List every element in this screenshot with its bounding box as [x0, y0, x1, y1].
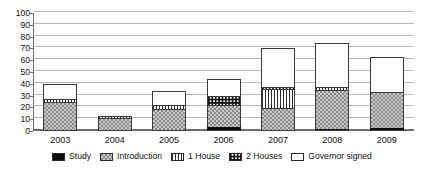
legend-swatch-icon [229, 153, 242, 161]
x-axis-label-2009: 2009 [365, 134, 409, 146]
stacked-bar-chart: 0102030405060708090100 20032004200520062… [0, 0, 424, 174]
bar-segment-introduction[interactable] [315, 90, 349, 129]
x-axis-label-2004: 2004 [93, 134, 137, 146]
bar-segment-1-house[interactable] [98, 116, 132, 118]
y-axis-tick-label: 30 [2, 91, 30, 100]
x-axis-label-2007: 2007 [256, 134, 300, 146]
bar-stack-2006[interactable] [207, 79, 241, 131]
bar-segment-introduction[interactable] [370, 92, 404, 128]
bar-stack-2003[interactable] [43, 84, 77, 131]
bar-segment-1-house[interactable] [43, 99, 77, 101]
legend-label: Introduction [117, 152, 162, 161]
legend-label: Governor signed [308, 152, 372, 161]
y-axis-tick-label: 60 [2, 56, 30, 65]
y-axis-tick-label: 100 [2, 9, 30, 18]
legend-item-1-house[interactable]: 1 House [171, 152, 220, 161]
legend-swatch-icon [171, 153, 184, 161]
legend-item-governor-signed[interactable]: Governor signed [291, 152, 372, 161]
y-axis-tick-label: 50 [2, 68, 30, 77]
legend-swatch-icon [52, 153, 65, 161]
y-axis-tick-label: 70 [2, 44, 30, 53]
legend-item-introduction[interactable]: Introduction [100, 152, 162, 161]
y-axis-tick-label: 90 [2, 21, 30, 30]
y-axis-tick-label: 80 [2, 32, 30, 41]
legend-label: 2 Houses [246, 152, 282, 161]
legend-swatch-icon [291, 153, 304, 161]
x-axis-label-2006: 2006 [202, 134, 246, 146]
x-axis-tick-labels: 2003200420052006200720082009 [33, 134, 414, 148]
bar-segment-introduction[interactable] [152, 109, 186, 131]
bar-segment-introduction[interactable] [98, 118, 132, 131]
bar-segment-governor-signed[interactable] [261, 48, 295, 88]
y-axis-tick-mark [30, 131, 33, 132]
x-axis-label-2008: 2008 [310, 134, 354, 146]
bar-segment-2-houses[interactable] [261, 87, 295, 89]
bar-segment-governor-signed[interactable] [43, 84, 77, 99]
bar-segment-2-houses[interactable] [207, 96, 241, 105]
bars-layer [33, 13, 414, 131]
bar-stack-2008[interactable] [315, 43, 349, 131]
bar-segment-1-house[interactable] [261, 89, 295, 108]
legend-item-study[interactable]: Study [52, 152, 91, 161]
bar-segment-study[interactable] [207, 127, 241, 131]
bar-segment-introduction[interactable] [207, 105, 241, 127]
bar-stack-2005[interactable] [152, 91, 186, 131]
bar-segment-study[interactable] [370, 128, 404, 131]
bar-segment-governor-signed[interactable] [370, 57, 404, 92]
bar-stack-2004[interactable] [98, 116, 132, 131]
bar-stack-2007[interactable] [261, 48, 295, 131]
bar-segment-1-house[interactable] [315, 87, 349, 91]
legend-label: Study [69, 152, 91, 161]
bar-stack-2009[interactable] [370, 57, 404, 131]
bar-segment-introduction[interactable] [261, 108, 295, 131]
bar-segment-governor-signed[interactable] [207, 79, 241, 96]
bar-segment-study[interactable] [315, 129, 349, 131]
legend-swatch-icon [100, 153, 113, 161]
bar-segment-1-house[interactable] [152, 105, 186, 109]
bar-segment-governor-signed[interactable] [152, 91, 186, 105]
chart-legend: StudyIntroduction1 House2 HousesGovernor… [0, 152, 424, 161]
bar-segment-governor-signed[interactable] [315, 43, 349, 86]
y-axis-tick-label: 0 [2, 127, 30, 136]
y-axis-tick-label: 40 [2, 80, 30, 89]
grid-line [34, 11, 414, 12]
y-axis-tick-label: 20 [2, 103, 30, 112]
x-axis-label-2005: 2005 [147, 134, 191, 146]
x-axis-label-2003: 2003 [38, 134, 82, 146]
legend-item-2-houses[interactable]: 2 Houses [229, 152, 282, 161]
y-axis-tick-label: 10 [2, 115, 30, 124]
bar-segment-introduction[interactable] [43, 102, 77, 132]
legend-label: 1 House [188, 152, 220, 161]
